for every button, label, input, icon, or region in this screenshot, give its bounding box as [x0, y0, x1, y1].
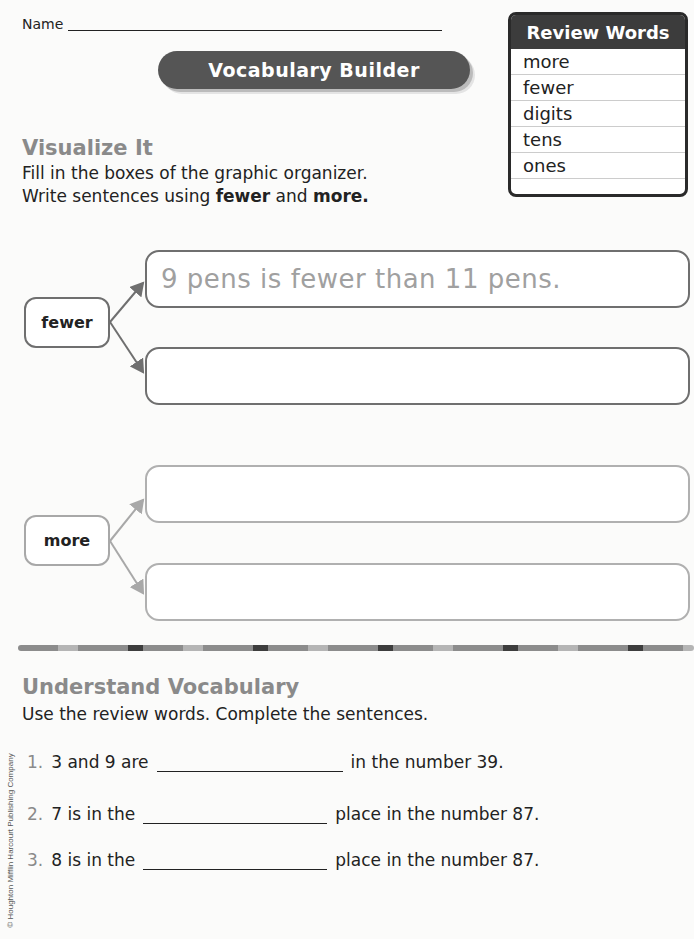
more-answer-box-1[interactable]: [145, 465, 690, 523]
copyright-notice: © Houghton Mifflin Harcourt Publishing C…: [6, 751, 15, 931]
understand-title: Understand Vocabulary: [22, 675, 299, 699]
fewer-answer-box-2[interactable]: [145, 347, 690, 405]
question-text: place in the number 87.: [335, 850, 539, 870]
answer-blank-1[interactable]: [157, 753, 343, 772]
question-number: 1.: [27, 752, 43, 772]
question-text: 7 is in the: [51, 804, 135, 824]
understand-instructions: Use the review words. Complete the sente…: [22, 703, 428, 726]
answer-blank-3[interactable]: [143, 851, 327, 870]
question-text: 3 and 9 are: [51, 752, 148, 772]
section-divider: [18, 645, 694, 651]
node-label: more: [44, 531, 90, 550]
question-1: 1. 3 and 9 are in the number 39.: [27, 752, 504, 772]
answer-blank-2[interactable]: [143, 805, 327, 824]
node-label: fewer: [41, 313, 92, 332]
question-text: in the number 39.: [351, 752, 504, 772]
question-text: 8 is in the: [51, 850, 135, 870]
organizer-node-fewer: fewer: [24, 297, 110, 348]
question-number: 3.: [27, 850, 43, 870]
organizer-node-more: more: [24, 515, 110, 566]
question-number: 2.: [27, 804, 43, 824]
more-answer-box-2[interactable]: [145, 563, 690, 621]
question-2: 2. 7 is in the place in the number 87.: [27, 804, 539, 824]
question-3: 3. 8 is in the place in the number 87.: [27, 850, 539, 870]
fewer-answer-box-1[interactable]: 9 pens is fewer than 11 pens.: [145, 250, 690, 308]
traced-example-sentence: 9 pens is fewer than 11 pens.: [161, 264, 561, 294]
question-text: place in the number 87.: [335, 804, 539, 824]
